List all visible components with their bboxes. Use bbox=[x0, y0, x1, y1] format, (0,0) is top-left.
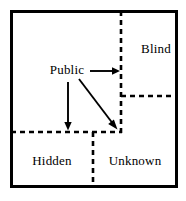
region-label-blind: Blind bbox=[141, 41, 171, 56]
arrow-public-to-unknown bbox=[79, 79, 118, 130]
region-label-unknown: Unknown bbox=[109, 153, 162, 168]
arrow-public-to-hidden bbox=[64, 82, 71, 131]
region-label-public: Public bbox=[50, 62, 84, 77]
arrow-public-to-blind bbox=[90, 67, 120, 74]
region-label-hidden: Hidden bbox=[32, 153, 72, 168]
johari-window-diagram: Blind Public Hidden Unknown bbox=[0, 0, 186, 201]
johari-window-canvas: Blind Public Hidden Unknown bbox=[0, 0, 186, 201]
